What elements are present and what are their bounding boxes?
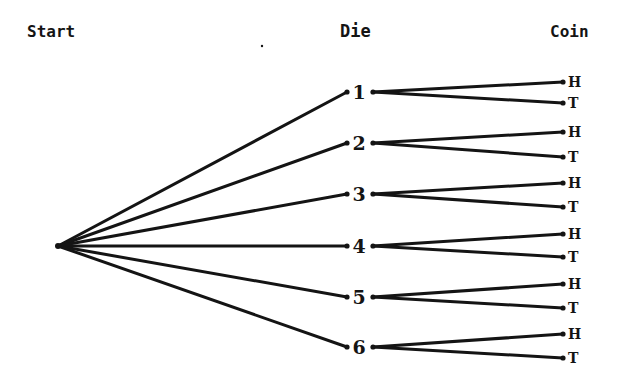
- branch-die-5-to-H: [373, 284, 563, 297]
- coin-leaf-label: H: [568, 326, 581, 342]
- die-node-label: 5: [352, 286, 365, 308]
- die-node-out-dot: [370, 140, 375, 145]
- leaf-dot: [560, 154, 565, 159]
- branch-die-2-to-T: [373, 143, 563, 157]
- coin-leaf-label: H: [568, 124, 581, 140]
- branch-die-6-to-T: [373, 347, 563, 358]
- die-node-dot: [344, 140, 349, 145]
- header-die: Die: [340, 21, 371, 41]
- leaf-dot: [560, 281, 565, 286]
- die-node-label: 4: [352, 235, 365, 257]
- branch-start-to-die-6: [58, 246, 347, 347]
- coin-leaf-label: T: [568, 249, 579, 265]
- header-coin: Coin: [550, 22, 589, 41]
- die-node-dot: [344, 191, 349, 196]
- leaf-dot: [560, 355, 565, 360]
- coin-leaf-label: T: [568, 350, 579, 366]
- coin-leaf-label: T: [568, 300, 579, 316]
- tree-diagram: Start Die Coin 1HT2HT3HT4HT5HT6HT: [0, 0, 631, 392]
- leaf-dot: [560, 79, 565, 84]
- die-node-label: 1: [352, 81, 365, 103]
- coin-leaf-label: H: [568, 74, 581, 90]
- branch-die-3-to-H: [373, 183, 563, 194]
- leaf-dot: [560, 180, 565, 185]
- header-start: Start: [27, 22, 75, 41]
- start-node: [55, 243, 61, 249]
- branch-die-2-to-H: [373, 132, 563, 143]
- leaf-dot: [560, 204, 565, 209]
- die-node-out-dot: [370, 243, 375, 248]
- branch-start-to-die-1: [58, 92, 347, 246]
- coin-leaf-label: H: [568, 276, 581, 292]
- coin-leaf-label: H: [568, 175, 581, 191]
- branch-start-to-die-3: [58, 194, 347, 246]
- leaf-dot: [560, 129, 565, 134]
- coin-leaf-label: T: [568, 199, 579, 215]
- stray-mark: [261, 45, 263, 47]
- die-node-label: 3: [352, 183, 365, 205]
- coin-leaf-label: H: [568, 226, 581, 242]
- die-node-dot: [344, 344, 349, 349]
- branch-die-5-to-T: [373, 297, 563, 308]
- leaf-dot: [560, 100, 565, 105]
- die-node-dot: [344, 89, 349, 94]
- branch-die-4-to-H: [373, 234, 563, 246]
- die-node-out-dot: [370, 191, 375, 196]
- leaf-dot: [560, 305, 565, 310]
- coin-leaf-label: T: [568, 95, 579, 111]
- die-node-label: 6: [352, 336, 365, 358]
- coin-leaf-label: T: [568, 149, 579, 165]
- die-node-dot: [344, 294, 349, 299]
- leaf-dot: [560, 254, 565, 259]
- branch-die-1-to-T: [373, 92, 563, 103]
- die-node-dot: [344, 243, 349, 248]
- branch-die-3-to-T: [373, 194, 563, 207]
- leaf-dot: [560, 331, 565, 336]
- branch-die-4-to-T: [373, 246, 563, 257]
- branch-start-to-die-5: [58, 246, 347, 297]
- die-node-out-dot: [370, 294, 375, 299]
- tree-edges: [58, 82, 563, 358]
- die-node-out-dot: [370, 89, 375, 94]
- die-node-out-dot: [370, 344, 375, 349]
- leaf-dot: [560, 231, 565, 236]
- branch-die-1-to-H: [373, 82, 563, 92]
- die-node-label: 2: [352, 132, 365, 154]
- tree-diagram-svg: Start Die Coin 1HT2HT3HT4HT5HT6HT: [0, 0, 631, 392]
- branch-start-to-die-2: [58, 143, 347, 246]
- branch-die-6-to-H: [373, 334, 563, 347]
